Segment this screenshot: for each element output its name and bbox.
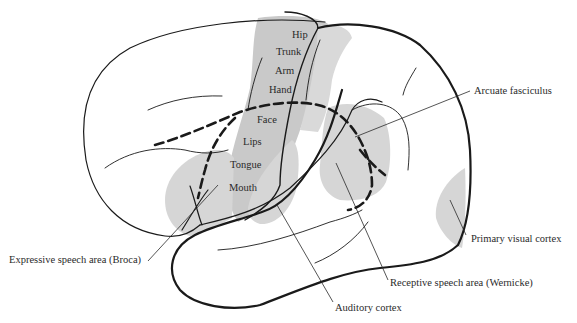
label-wernicke-area: Receptive speech area (Wernicke) bbox=[390, 277, 533, 289]
label-tongue: Tongue bbox=[230, 159, 262, 170]
label-broca-area: Expressive speech area (Broca) bbox=[9, 254, 142, 266]
shaded-regions bbox=[165, 16, 466, 248]
superior-frontal-sulcus bbox=[148, 96, 222, 110]
inferior-temporal-sulcus bbox=[315, 222, 368, 263]
label-hand: Hand bbox=[269, 84, 292, 95]
wernicke-area-region bbox=[320, 104, 391, 200]
label-arm: Arm bbox=[275, 65, 294, 76]
label-trunk: Trunk bbox=[276, 46, 302, 57]
intraparietal-sulcus bbox=[403, 68, 416, 95]
label-face: Face bbox=[257, 114, 277, 125]
label-lips: Lips bbox=[243, 136, 262, 147]
label-arcuate-fasciculus: Arcuate fasciculus bbox=[474, 85, 552, 96]
label-auditory-cortex: Auditory cortex bbox=[335, 302, 403, 313]
label-mouth: Mouth bbox=[229, 182, 258, 193]
label-hip: Hip bbox=[292, 29, 308, 40]
brain-language-areas-diagram: Hip Trunk Arm Hand Face Lips Tongue Mout… bbox=[0, 0, 577, 323]
label-primary-visual-cortex: Primary visual cortex bbox=[471, 233, 562, 244]
